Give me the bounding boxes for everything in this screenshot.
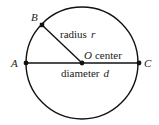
- radius-symbol: r: [91, 28, 96, 40]
- center-label: Ocenter: [84, 49, 122, 61]
- point-o-dot: [80, 61, 85, 66]
- radius-word: radius: [60, 28, 87, 40]
- point-c-dot: [137, 61, 142, 66]
- label-point-c: C: [144, 57, 152, 69]
- label-point-b: B: [31, 11, 38, 23]
- point-b-dot: [40, 23, 44, 27]
- label-point-a: A: [10, 57, 18, 69]
- circle-diagram: B A C radiusr Ocenter diameterd: [0, 0, 159, 125]
- center-symbol: O: [84, 49, 92, 61]
- diameter-label: diameterd: [61, 67, 109, 79]
- point-a-dot: [24, 61, 29, 66]
- diameter-symbol: d: [103, 67, 109, 79]
- radius-label: radiusr: [60, 28, 96, 40]
- center-word: center: [95, 49, 122, 61]
- diameter-word: diameter: [61, 67, 100, 79]
